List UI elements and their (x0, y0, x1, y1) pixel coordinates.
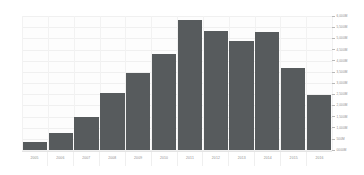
tick-mark-icon (332, 27, 335, 28)
y-axis-tick: 1,000M (332, 124, 347, 132)
y-axis-tick-label: 4,500M (337, 48, 348, 52)
y-axis-tick: 2,000M (332, 101, 347, 109)
y-axis-tick: 3,500M (332, 68, 347, 76)
bar-slot (48, 16, 74, 150)
bar[interactable] (281, 68, 305, 150)
bar-slot (99, 16, 125, 150)
tick-mark-icon (332, 127, 335, 128)
y-axis-tick-label: 3,000M (337, 81, 348, 85)
x-axis-tick-label: 2010 (152, 152, 178, 166)
y-axis-tick-label: 500M (337, 137, 345, 141)
bar[interactable] (255, 32, 279, 150)
bar[interactable] (126, 73, 150, 150)
tick-mark-icon (332, 94, 335, 95)
x-axis: 2005200620072008200920102011201220132014… (22, 151, 332, 166)
y-axis-tick-label: 3,500M (337, 70, 348, 74)
y-axis-tick: 6,000M (332, 12, 347, 20)
bar-slot (229, 16, 255, 150)
y-axis-tick: 1,500M (332, 113, 347, 121)
bar-chart: 0000M500M1,000M1,500M2,000M2,500M3,000M3… (0, 0, 364, 175)
bar[interactable] (74, 117, 98, 151)
bar-slot (280, 16, 306, 150)
x-axis-tick-label: 2008 (100, 152, 126, 166)
plot-area (22, 16, 332, 150)
bar-slot (306, 16, 332, 150)
x-axis-tick-label: 2014 (255, 152, 281, 166)
x-axis-tick-label: 2006 (48, 152, 74, 166)
tick-mark-icon (332, 116, 335, 117)
y-axis-tick: 3,000M (332, 79, 347, 87)
bar-slot (125, 16, 151, 150)
bar[interactable] (23, 142, 47, 150)
bar[interactable] (204, 31, 228, 150)
x-axis-tick-label: 2013 (229, 152, 255, 166)
y-axis-tick: 0000M (332, 146, 346, 154)
tick-mark-icon (332, 38, 335, 39)
y-axis-tick-label: 5,500M (337, 25, 348, 29)
bar-series (22, 16, 332, 150)
bar-slot (22, 16, 48, 150)
tick-mark-icon (332, 60, 335, 61)
bar[interactable] (178, 20, 202, 150)
tick-mark-icon (332, 49, 335, 50)
y-axis-tick: 4,500M (332, 46, 347, 54)
bar-slot (254, 16, 280, 150)
y-axis-tick: 5,500M (332, 23, 347, 31)
bar[interactable] (307, 95, 331, 150)
y-axis-tick-label: 5,000M (337, 36, 348, 40)
y-axis-tick-label: 6,000M (337, 14, 348, 18)
y-axis-tick: 500M (332, 135, 345, 143)
x-axis-tick-label: 2011 (178, 152, 204, 166)
tick-mark-icon (332, 83, 335, 84)
y-axis-tick-label: 2,500M (337, 92, 348, 96)
tick-mark-icon (332, 16, 335, 17)
bar-slot (74, 16, 100, 150)
bar[interactable] (229, 41, 253, 150)
bar[interactable] (100, 93, 124, 150)
bar[interactable] (152, 54, 176, 150)
x-axis-tick-label: 2015 (281, 152, 307, 166)
tick-mark-icon (332, 105, 335, 106)
y-axis-tick-label: 1,000M (337, 126, 348, 130)
bar-slot (203, 16, 229, 150)
y-axis-tick-label: 2,000M (337, 103, 348, 107)
y-axis-tick-label: 0000M (337, 148, 347, 152)
y-axis-tick: 5,000M (332, 34, 347, 42)
bar-slot (151, 16, 177, 150)
x-axis-tick-label: 2007 (74, 152, 100, 166)
y-axis: 0000M500M1,000M1,500M2,000M2,500M3,000M3… (332, 16, 364, 150)
tick-mark-icon (332, 150, 335, 151)
y-axis-tick-label: 4,000M (337, 59, 348, 63)
x-axis-tick-label: 2005 (22, 152, 48, 166)
x-axis-tick-label: 2012 (203, 152, 229, 166)
tick-mark-icon (332, 72, 335, 73)
x-axis-tick-label: 2016 (307, 152, 332, 166)
y-axis-tick: 2,500M (332, 90, 347, 98)
bar-slot (177, 16, 203, 150)
y-axis-tick: 4,000M (332, 57, 347, 65)
bar[interactable] (49, 133, 73, 150)
x-axis-tick-label: 2009 (126, 152, 152, 166)
y-axis-tick-label: 1,500M (337, 115, 348, 119)
tick-mark-icon (332, 139, 335, 140)
